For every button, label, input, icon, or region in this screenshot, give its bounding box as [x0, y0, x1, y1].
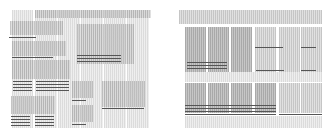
text-line — [11, 125, 30, 126]
text-line — [301, 70, 316, 71]
text-line — [185, 114, 276, 115]
text-line — [11, 116, 30, 117]
text-line — [77, 55, 121, 56]
text-line — [185, 111, 276, 112]
text-line — [35, 119, 54, 120]
text-line — [36, 81, 69, 82]
text-line — [36, 84, 69, 85]
text-line — [187, 65, 227, 66]
content-block — [10, 21, 63, 35]
content-block — [12, 41, 66, 56]
column-block — [279, 27, 300, 72]
right-wireframe — [166, 0, 333, 138]
text-line — [13, 90, 32, 91]
text-line — [13, 87, 32, 88]
column-block — [255, 27, 276, 72]
content-block — [72, 81, 93, 98]
left-wireframe — [0, 0, 166, 138]
text-line — [256, 70, 284, 71]
text-line — [35, 116, 54, 117]
column-block — [301, 27, 322, 72]
text-line — [187, 62, 227, 63]
text-line — [13, 84, 32, 85]
text-line — [11, 119, 30, 120]
content-block — [72, 105, 93, 122]
text-line — [9, 37, 36, 38]
text-line — [255, 47, 283, 48]
content-block — [11, 96, 55, 114]
text-line — [11, 122, 30, 123]
column-block — [231, 27, 252, 72]
text-line — [35, 122, 54, 123]
text-line — [187, 68, 227, 69]
text-line — [279, 114, 322, 115]
text-line — [77, 58, 121, 59]
text-line — [185, 105, 276, 106]
spacer-block — [185, 116, 322, 128]
header-block — [35, 10, 151, 18]
text-line — [36, 90, 69, 91]
text-line — [72, 100, 86, 101]
column-block — [279, 83, 300, 113]
content-block — [12, 60, 70, 79]
column-block — [301, 83, 322, 113]
content-block — [102, 81, 145, 107]
text-line — [36, 87, 69, 88]
spacer-block — [185, 72, 322, 82]
text-line — [77, 61, 121, 62]
text-line — [72, 124, 86, 125]
text-line — [35, 125, 54, 126]
text-line — [12, 57, 53, 58]
text-line — [301, 47, 316, 48]
text-line — [102, 108, 144, 109]
text-line — [185, 108, 276, 109]
text-line — [13, 81, 32, 82]
header-block — [179, 10, 322, 24]
